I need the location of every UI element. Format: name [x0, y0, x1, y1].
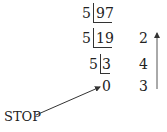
stop-arrow-icon: [36, 87, 100, 115]
arrows: [0, 0, 167, 132]
